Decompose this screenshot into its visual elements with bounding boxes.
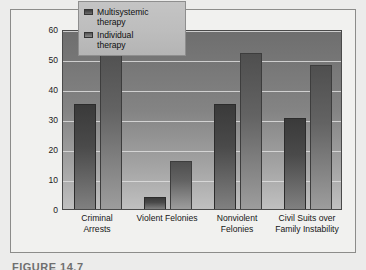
bar — [214, 104, 236, 209]
y-axis-tick-label: 60 — [36, 26, 58, 35]
bar — [144, 197, 166, 209]
x-axis-tick-label-line: Nonviolent — [202, 213, 272, 224]
x-axis-tick-label-line: Family Instability — [272, 224, 342, 235]
y-axis-tick-label: 10 — [36, 176, 58, 185]
y-axis-tick-label: 0 — [36, 206, 58, 215]
x-axis-tick-label-line: Civil Suits over — [272, 213, 342, 224]
legend-item: Multisystemictherapy — [84, 7, 181, 27]
bar — [74, 104, 96, 209]
plot-area — [62, 30, 342, 210]
chart-legend: MultisystemictherapyIndividualtherapy — [78, 1, 186, 56]
x-axis-tick-label-line: Arrests — [62, 224, 132, 235]
x-axis-tick-label: Civil Suits overFamily Instability — [272, 213, 342, 234]
bar — [100, 44, 122, 209]
x-axis-tick-label-line: Criminal — [62, 213, 132, 224]
legend-item: Individualtherapy — [84, 30, 181, 50]
figure-caption: FIGURE 14.7 — [12, 261, 84, 270]
y-axis-tick-label: 30 — [36, 116, 58, 125]
x-axis-tick-label: NonviolentFelonies — [202, 213, 272, 234]
x-axis-tick-label-line: Violent Felonies — [132, 213, 202, 224]
x-axis-tick-label: CriminalArrests — [62, 213, 132, 234]
x-axis-tick-label: Violent Felonies — [132, 213, 202, 224]
legend-label: Multisystemictherapy — [97, 7, 149, 27]
y-axis-tick-label: 20 — [36, 146, 58, 155]
bar — [284, 118, 306, 210]
legend-label: Individualtherapy — [97, 30, 133, 50]
bar — [310, 65, 332, 209]
bar — [170, 161, 192, 209]
y-axis-tick-label: 40 — [36, 86, 58, 95]
legend-swatch-icon — [84, 32, 93, 38]
x-axis-tick-label-line: Felonies — [202, 224, 272, 235]
bar — [240, 53, 262, 209]
legend-swatch-icon — [84, 9, 93, 15]
figure-root: Percentage of Participants 0102030405060… — [0, 0, 366, 270]
y-axis-tick-label: 50 — [36, 56, 58, 65]
